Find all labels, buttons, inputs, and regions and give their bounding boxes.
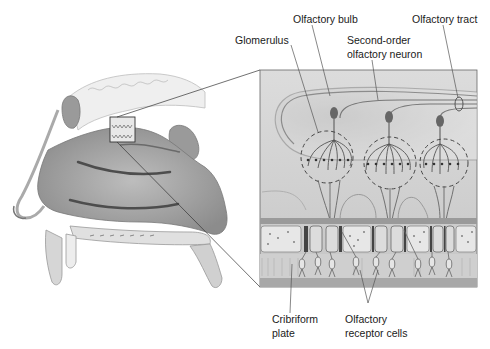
head-section — [14, 74, 227, 288]
label-olfactory-bulb: Olfactory bulb — [293, 13, 358, 26]
label-receptor-line2: receptor cells — [345, 327, 407, 340]
label-receptor-line1: Olfactory — [345, 313, 387, 326]
inset-panel — [260, 70, 477, 287]
label-second-order-line2: olfactory neuron — [347, 48, 422, 61]
label-second-order-line1: Second-order — [347, 34, 411, 47]
label-olfactory-tract: Olfactory tract — [412, 13, 477, 26]
label-glomerulus: Glomerulus — [235, 34, 289, 47]
label-cribriform-line2: plate — [272, 327, 295, 340]
olfactory-diagram: Olfactory bulb Olfactory tract Glomerulu… — [0, 0, 490, 349]
label-cribriform-line1: Cribriform — [272, 313, 318, 326]
